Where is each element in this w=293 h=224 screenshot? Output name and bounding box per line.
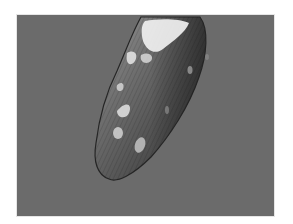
photo: [17, 15, 274, 216]
pepper-image: [17, 15, 274, 216]
